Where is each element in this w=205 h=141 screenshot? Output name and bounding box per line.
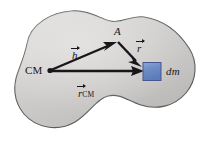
vector-h-label: h <box>72 46 78 62</box>
dm-square-fill <box>143 63 161 81</box>
cm-point-marker <box>47 68 52 73</box>
vector-r-cm-letter: r <box>78 87 82 99</box>
vector-r-cm-label: rCM <box>78 84 94 100</box>
physics-vector-diagram: CM A dm h r rCM <box>0 0 205 141</box>
dm-label: dm <box>166 66 180 77</box>
dm-square <box>143 63 161 81</box>
point-a-label: A <box>114 26 121 37</box>
vector-r-label: r <box>137 39 141 55</box>
vector-h-letter: h <box>72 49 78 61</box>
vector-r-cm-subscript: CM <box>82 90 94 99</box>
cm-label: CM <box>25 65 43 76</box>
vector-r-letter: r <box>137 42 141 54</box>
